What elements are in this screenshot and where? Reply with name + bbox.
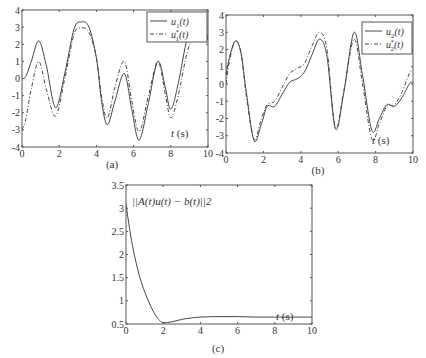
y-tick-label: 4 <box>15 5 20 16</box>
y-tick-label: 2.5 <box>112 226 125 237</box>
panel-caption: (a) <box>106 158 119 171</box>
x-axis-label: t (s) <box>276 310 294 323</box>
y-tick-label: -3 <box>216 130 224 141</box>
y-tick-label: 1 <box>15 56 20 67</box>
chart-panel-2: 02468100.511.522.533.5||A(t)u(t) − b(t)|… <box>112 180 318 356</box>
y-tick-label: -2 <box>216 113 224 124</box>
x-tick-label: 8 <box>373 154 378 165</box>
x-tick-label: 6 <box>235 325 240 336</box>
y-tick-label: -2 <box>12 107 20 118</box>
y-tick-label: 1 <box>119 295 124 306</box>
legend-arg: (t) <box>394 39 404 51</box>
panel-caption: (c) <box>212 342 225 355</box>
y-tick-label: -1 <box>12 90 20 101</box>
series-line-0 <box>126 204 312 323</box>
x-axis-unit: (s) <box>174 127 189 140</box>
x-tick-label: 6 <box>336 154 341 165</box>
x-tick-label: 8 <box>168 148 173 159</box>
y-tick-label: -3 <box>12 124 20 135</box>
x-tick-label: 0 <box>124 325 129 336</box>
y-tick-label: 1.5 <box>112 272 125 283</box>
x-axis-label: t (s) <box>372 134 390 147</box>
x-tick-label: 4 <box>298 154 303 165</box>
x-tick-label: 10 <box>307 325 317 336</box>
y-tick-label: 0.5 <box>112 319 125 330</box>
y-tick-label: 3.5 <box>112 180 125 191</box>
y-tick-label: -4 <box>12 142 20 153</box>
x-axis-unit: (s) <box>375 134 390 147</box>
x-tick-label: 4 <box>94 148 99 159</box>
x-tick-label: 2 <box>261 154 266 165</box>
y-tick-label: -1 <box>216 96 224 107</box>
figure: 0246810-4-3-2-101234u1(t)u*1(t)t (s)(a)0… <box>0 0 426 358</box>
chart-panel-0: 0246810-4-3-2-101234u1(t)u*1(t)t (s)(a) <box>12 5 213 172</box>
y-tick-label: 3 <box>119 203 124 214</box>
panel-caption: (b) <box>312 164 325 177</box>
y-tick-label: 2 <box>15 39 20 50</box>
series-line-1 <box>22 28 208 132</box>
x-tick-label: 10 <box>203 148 213 159</box>
norm-annotation: ||A(t)u(t) − b(t)||2 <box>132 195 212 208</box>
y-tick-label: 2 <box>219 44 224 55</box>
y-tick-label: 2 <box>119 249 124 260</box>
legend-arg: (t) <box>179 29 189 41</box>
x-tick-label: 2 <box>161 325 166 336</box>
x-tick-label: 8 <box>272 325 277 336</box>
x-tick-label: 2 <box>57 148 62 159</box>
x-tick-label: 6 <box>131 148 136 159</box>
legend-arg: (t) <box>395 26 405 38</box>
y-tick-label: 3 <box>219 27 224 38</box>
y-tick-label: 3 <box>15 22 20 33</box>
y-tick-label: 4 <box>219 10 224 21</box>
y-tick-label: 1 <box>219 61 224 72</box>
y-tick-label: 0 <box>15 73 20 84</box>
x-axis-label: t (s) <box>171 127 189 140</box>
chart-panel-1: 0246810-4-3-2-101234u2(t)u*2(t)t (s)(b) <box>216 10 418 178</box>
x-tick-label: 0 <box>224 154 229 165</box>
legend: u2(t)u*2(t) <box>362 22 412 54</box>
x-tick-label: 4 <box>198 325 203 336</box>
x-tick-label: 10 <box>408 154 418 165</box>
legend-arg: (t) <box>180 16 190 28</box>
x-axis-unit: (s) <box>279 310 294 323</box>
legend: u1(t)u*1(t) <box>147 12 207 43</box>
y-tick-label: 0 <box>219 79 224 90</box>
x-tick-label: 0 <box>20 148 25 159</box>
y-tick-label: -4 <box>216 148 224 159</box>
